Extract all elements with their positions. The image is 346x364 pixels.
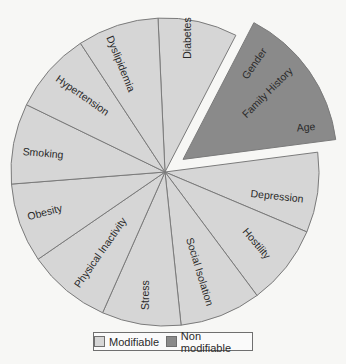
legend-swatch-modifiable <box>94 336 105 347</box>
legend-swatch-non-modifiable <box>166 336 177 347</box>
label-stress: Stress <box>139 280 151 310</box>
legend-label-non-modifiable: Non modifiable <box>181 330 252 354</box>
label-diabetes: Diabetes <box>181 17 193 58</box>
label-age: Age <box>296 120 316 134</box>
legend-item-modifiable: Modifiable <box>94 336 159 348</box>
legend: Modifiable Non modifiable <box>93 332 253 351</box>
legend-label-modifiable: Modifiable <box>109 336 159 348</box>
pie-slices <box>11 18 336 326</box>
risk-factor-pie-chart: DiabetesDyslipidemiaHypertensionSmokingO… <box>0 0 346 364</box>
legend-item-non-modifiable: Non modifiable <box>166 330 252 354</box>
